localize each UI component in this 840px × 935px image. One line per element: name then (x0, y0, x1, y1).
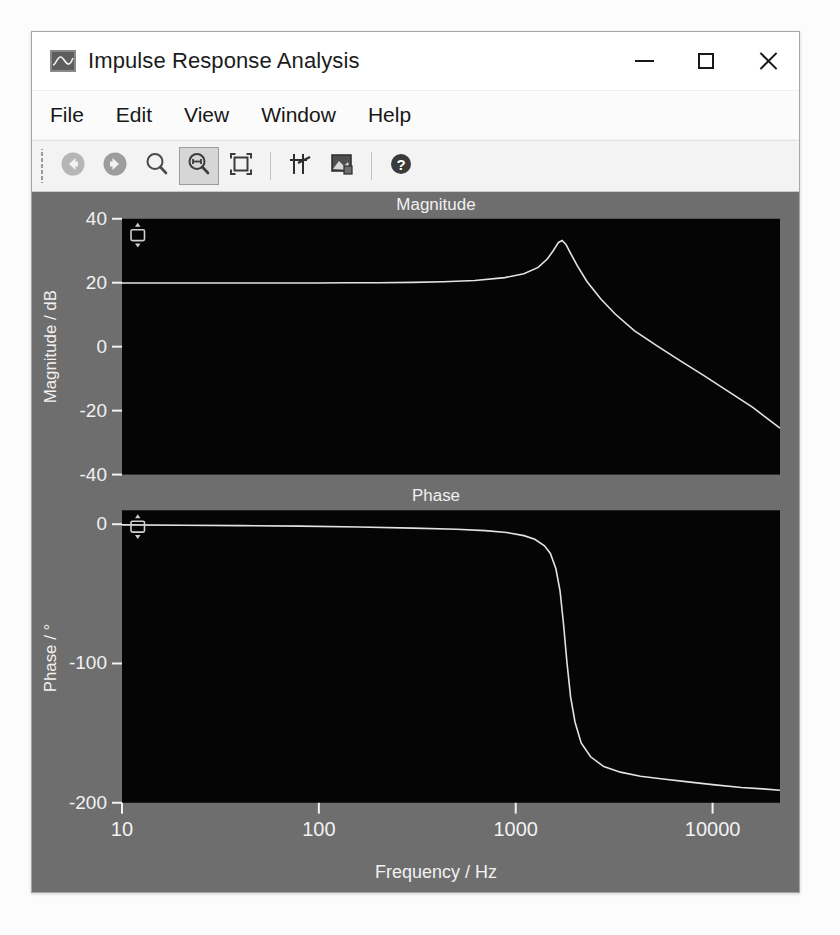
menu-item-help[interactable]: Help (368, 99, 427, 131)
frequency-axis-label: Frequency / Hz (375, 862, 497, 882)
maximize-button[interactable] (675, 32, 737, 90)
y-tick-label: 0 (96, 513, 107, 534)
phase-plot-title: Phase (412, 486, 460, 505)
menu-bar: File Edit View Window Help (32, 91, 799, 140)
svg-text:?: ? (396, 156, 405, 173)
close-icon (758, 51, 778, 71)
waveform-icon (50, 50, 76, 72)
magnitude-plot-area (122, 219, 780, 475)
question-circle-icon: ? (387, 150, 415, 182)
toolbar-drag-handle[interactable] (38, 149, 47, 183)
phase-plot-area (122, 510, 780, 802)
menu-item-edit[interactable]: Edit (116, 99, 168, 131)
application-window: Impulse Response Analysis File Edit View… (31, 31, 800, 893)
menu-item-file[interactable]: File (50, 99, 100, 131)
y-tick-label: -100 (69, 653, 107, 674)
zoom-button[interactable] (137, 147, 177, 185)
x-tick-label: 1000 (493, 819, 537, 841)
arrow-left-circle-icon (59, 150, 87, 182)
magnifier-icon (143, 150, 171, 182)
magnifier-horizontal-icon (185, 150, 213, 182)
zoom-horizontal-button[interactable] (179, 147, 219, 185)
magnitude-y-axis-label: Magnitude / dB (41, 290, 60, 403)
plot-canvas[interactable]: Magnitude -40-2002040 Magnitude / dB Pha… (32, 192, 799, 892)
y-tick-label: 20 (86, 272, 107, 293)
fit-brackets-icon (227, 150, 255, 182)
maximize-icon (698, 53, 714, 69)
minimize-icon (635, 60, 654, 62)
window-title: Impulse Response Analysis (88, 48, 613, 74)
y-tick-label: -20 (80, 400, 107, 421)
window-controls (613, 32, 799, 90)
x-tick-label: 10 (111, 819, 133, 841)
minimize-button[interactable] (613, 32, 675, 90)
help-button[interactable]: ? (381, 147, 421, 185)
magnitude-plot[interactable]: Magnitude -40-2002040 Magnitude / dB (41, 195, 780, 485)
menu-item-window[interactable]: Window (261, 99, 352, 131)
picture-export-icon (328, 150, 356, 182)
x-tick-label: 100 (302, 819, 335, 841)
forward-button[interactable] (95, 147, 135, 185)
back-button[interactable] (53, 147, 93, 185)
arrow-right-circle-icon (101, 150, 129, 182)
y-tick-label: 40 (86, 208, 107, 229)
y-tick-label: -40 (80, 464, 107, 485)
toolbar-separator (371, 152, 372, 180)
toolbar-separator (270, 152, 271, 180)
cursor-tool-button[interactable] (280, 147, 320, 185)
toolbar: ? (32, 140, 799, 192)
menu-item-view[interactable]: View (184, 99, 245, 131)
export-image-button[interactable] (322, 147, 362, 185)
phase-y-axis-label: Phase / ° (41, 624, 60, 693)
close-button[interactable] (737, 32, 799, 90)
crosshair-axes-icon (286, 150, 314, 182)
y-tick-label: -200 (69, 792, 107, 813)
y-tick-label: 0 (96, 336, 107, 357)
fit-to-window-button[interactable] (221, 147, 261, 185)
magnitude-plot-title: Magnitude (396, 195, 475, 214)
plots-svg: Magnitude -40-2002040 Magnitude / dB Pha… (32, 192, 799, 892)
x-tick-label: 10000 (685, 819, 741, 841)
title-bar[interactable]: Impulse Response Analysis (32, 32, 799, 91)
